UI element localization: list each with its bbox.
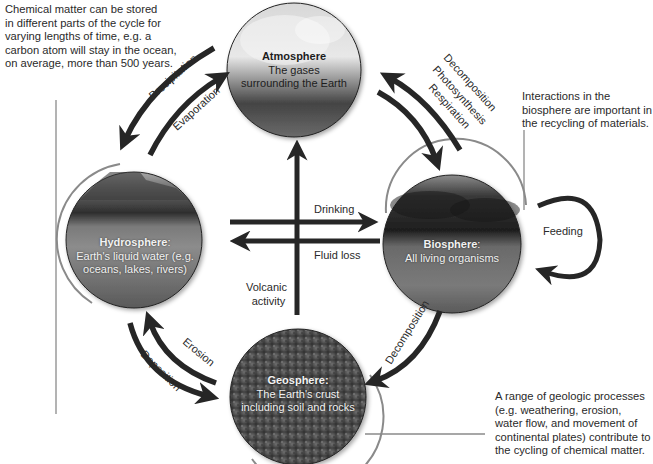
- geosphere-label: Geosphere: The Earth's crust including s…: [236, 374, 360, 415]
- hydrosphere-label: Hydrosphere: Earth's liquid water (e.g. …: [66, 236, 204, 277]
- evaporation-label: Evaporation: [170, 84, 222, 132]
- atmosphere-desc: The gases: [234, 64, 354, 78]
- note-line: (e.g. weathering, erosion,: [495, 404, 653, 418]
- note-line: Interactions in the: [522, 90, 653, 104]
- atmosphere-label: Atmosphere The gases surrounding the Ear…: [234, 50, 354, 91]
- volcanic-label-line: activity: [246, 294, 287, 308]
- biosphere-title-suffix: :: [477, 238, 480, 250]
- drinking-label: Drinking: [314, 203, 354, 215]
- note-line: varying lengths of time, e.g. a: [5, 30, 235, 44]
- hydrosphere-desc: oceans, lakes, rivers): [66, 263, 204, 277]
- note-line: the cycling of chemical matter.: [495, 444, 653, 458]
- atmosphere-to-biosphere-arrow: [378, 92, 436, 160]
- note-storage: Chemical matter can be stored in differe…: [5, 3, 235, 71]
- hydrosphere-title: Hydrosphere: [100, 236, 168, 248]
- feeding-loop-arrow: [538, 198, 600, 277]
- note-line: biosphere are important in: [522, 104, 653, 118]
- note-line: water flow, and movement of: [495, 417, 653, 431]
- deposition-label: Deposition: [139, 348, 184, 393]
- note-geologic-processes: A range of geologic processes (e.g. weat…: [495, 390, 653, 458]
- feeding-label: Feeding: [543, 225, 583, 237]
- note-line: continental plates) contribute to: [495, 431, 653, 445]
- volcanic-label-line: Volcanic: [246, 280, 287, 294]
- atmosphere-desc: surrounding the Earth: [234, 77, 354, 91]
- hydrosphere-title-suffix: :: [167, 236, 170, 248]
- geosphere-title: Geosphere:: [236, 374, 360, 388]
- biosphere-desc: All living organisms: [392, 252, 512, 266]
- note-line: the recycling of materials.: [522, 117, 653, 131]
- geosphere-desc: including soil and rocks: [236, 401, 360, 415]
- erosion-label: Erosion: [181, 335, 217, 368]
- atmosphere-title: Atmosphere: [234, 50, 354, 64]
- geosphere-desc: The Earth's crust: [236, 388, 360, 402]
- note-biosphere-interactions: Interactions in the biosphere are import…: [522, 90, 653, 131]
- note-line: A range of geologic processes: [495, 390, 653, 404]
- biosphere-label: Biosphere: All living organisms: [392, 238, 512, 265]
- fluid-loss-label: Fluid loss: [314, 249, 360, 261]
- note-line: Chemical matter can be stored: [5, 3, 235, 17]
- volcanic-activity-label: Volcanic activity: [246, 280, 287, 308]
- note-line: on average, more than 500 years.: [5, 57, 235, 71]
- hydrosphere-desc: Earth's liquid water (e.g.: [66, 250, 204, 264]
- note-line: carbon atom will stay in the ocean,: [5, 44, 235, 58]
- decomposition-bottom-label: Decomposition: [383, 298, 432, 366]
- biosphere-title: Biosphere: [424, 238, 478, 250]
- note-line: in different parts of the cycle for: [5, 17, 235, 31]
